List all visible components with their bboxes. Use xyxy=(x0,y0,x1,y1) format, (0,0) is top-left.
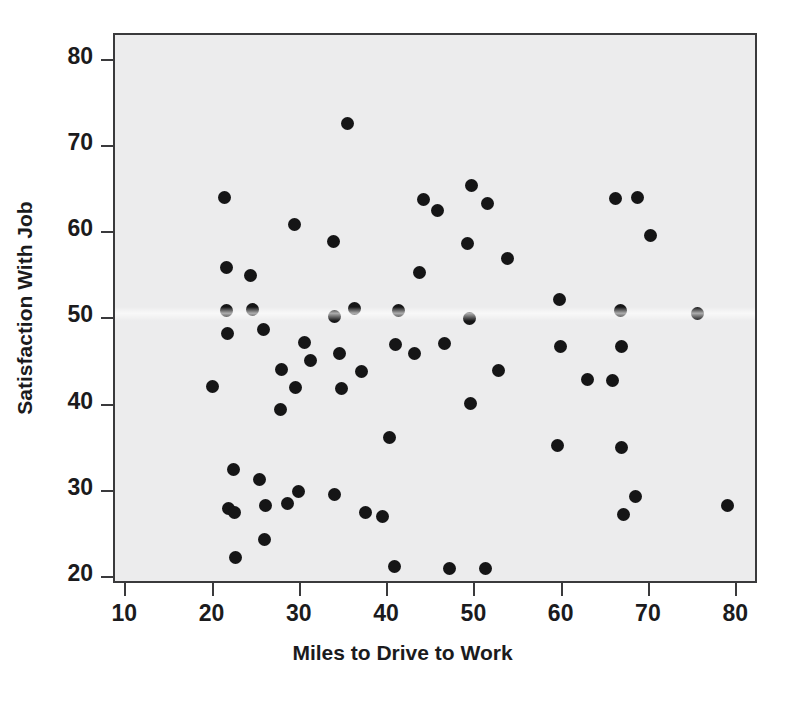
x-axis-tick xyxy=(561,583,563,596)
data-point xyxy=(501,252,514,265)
data-point xyxy=(614,304,627,317)
data-point xyxy=(274,403,287,416)
x-axis-tick-label: 50 xyxy=(461,600,487,627)
y-axis-tick xyxy=(101,404,113,406)
y-axis-label-wrapper: Satisfaction With Job xyxy=(0,0,50,616)
y-axis-tick xyxy=(101,59,113,61)
y-axis-tick-label: 40 xyxy=(67,388,93,415)
data-point xyxy=(359,506,372,519)
data-point xyxy=(431,204,444,217)
x-axis-tick-label: 60 xyxy=(548,600,574,627)
data-point xyxy=(417,193,430,206)
data-point xyxy=(691,307,704,320)
data-point xyxy=(227,463,240,476)
data-point xyxy=(389,338,402,351)
data-point xyxy=(492,364,505,377)
data-point xyxy=(288,218,301,231)
data-point xyxy=(259,499,272,512)
data-point xyxy=(615,441,628,454)
data-point xyxy=(461,237,474,250)
x-axis-tick xyxy=(212,583,214,596)
y-axis-tick xyxy=(101,231,113,233)
y-axis-tick xyxy=(101,145,113,147)
x-axis-tick xyxy=(473,583,475,596)
data-point xyxy=(554,340,567,353)
x-axis-tick-label: 80 xyxy=(722,600,748,627)
data-point xyxy=(221,327,234,340)
x-axis-tick xyxy=(386,583,388,596)
data-point xyxy=(465,179,478,192)
data-point xyxy=(609,192,622,205)
data-point xyxy=(479,562,492,575)
x-axis-tick xyxy=(648,583,650,596)
data-point xyxy=(258,533,271,546)
data-point xyxy=(629,490,642,503)
x-axis-tick-label: 30 xyxy=(286,600,312,627)
x-axis-tick-label: 70 xyxy=(635,600,661,627)
data-point xyxy=(355,365,368,378)
data-point xyxy=(348,302,361,315)
data-point xyxy=(220,304,233,317)
data-point xyxy=(408,347,421,360)
data-point xyxy=(229,551,242,564)
data-point xyxy=(335,382,348,395)
y-axis-tick-label: 50 xyxy=(67,301,93,328)
data-point xyxy=(281,497,294,510)
data-point xyxy=(275,363,288,376)
data-point xyxy=(631,191,644,204)
data-point xyxy=(463,312,476,325)
data-point xyxy=(206,380,219,393)
data-point xyxy=(438,337,451,350)
data-point xyxy=(443,562,456,575)
x-axis-tick-label: 10 xyxy=(112,600,138,627)
data-point xyxy=(220,261,233,274)
x-axis-tick-label: 20 xyxy=(199,600,225,627)
y-axis-tick xyxy=(101,490,113,492)
x-axis-tick xyxy=(735,583,737,596)
data-point xyxy=(388,560,401,573)
y-axis-tick-label: 60 xyxy=(67,215,93,242)
data-point xyxy=(551,439,564,452)
data-point xyxy=(413,266,426,279)
data-point xyxy=(246,303,259,316)
x-axis-label: Miles to Drive to Work xyxy=(0,641,805,665)
y-axis-label: Satisfaction With Job xyxy=(13,201,37,414)
data-point xyxy=(721,499,734,512)
x-axis-tick-label: 40 xyxy=(373,600,399,627)
data-point xyxy=(228,506,241,519)
x-axis-tick xyxy=(299,583,301,596)
data-point xyxy=(481,197,494,210)
data-point xyxy=(617,508,630,521)
data-point xyxy=(553,293,566,306)
data-point xyxy=(464,397,477,410)
data-point xyxy=(341,117,354,130)
data-point xyxy=(644,229,657,242)
data-point xyxy=(327,235,340,248)
y-axis-tick-label: 30 xyxy=(67,474,93,501)
data-point xyxy=(581,373,594,386)
scatter-plot-figure: 20304050607080 1020304050607080 Satisfac… xyxy=(0,0,805,708)
data-point xyxy=(244,269,257,282)
x-axis-tick xyxy=(124,583,126,596)
data-point xyxy=(376,510,389,523)
data-point xyxy=(328,488,341,501)
y-axis-tick-label: 80 xyxy=(67,43,93,70)
data-point xyxy=(298,336,311,349)
data-point xyxy=(328,310,341,323)
plot-area xyxy=(113,33,757,583)
data-point xyxy=(606,374,619,387)
data-point xyxy=(392,304,405,317)
data-point xyxy=(304,354,317,367)
data-point xyxy=(615,340,628,353)
data-point xyxy=(218,191,231,204)
data-point xyxy=(289,381,302,394)
y-axis-tick-label: 20 xyxy=(67,560,93,587)
y-axis-tick xyxy=(101,576,113,578)
y-axis-tick xyxy=(101,317,113,319)
data-point xyxy=(257,323,270,336)
data-point xyxy=(292,485,305,498)
data-point xyxy=(253,473,266,486)
data-point xyxy=(333,347,346,360)
y-axis-tick-label: 70 xyxy=(67,129,93,156)
data-point xyxy=(383,431,396,444)
